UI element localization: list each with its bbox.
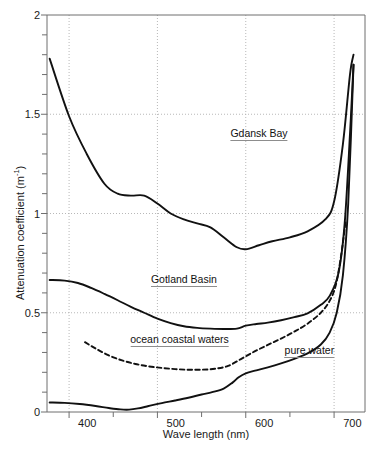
series-label-gotland-basin: Gotland Basin <box>151 273 217 287</box>
series-label-gdansk-bay: Gdansk Bay <box>230 127 287 141</box>
series-label-ocean-coastal-waters: ocean coastal waters <box>130 333 229 347</box>
y-tick-label-2: 2 <box>10 9 40 21</box>
x-tick-label-600: 600 <box>255 417 273 429</box>
y-axis-title: Attenuation coefficient (m-1) <box>14 166 26 300</box>
curve-gdansk-bay <box>50 55 354 250</box>
curve-gotland-basin <box>50 65 354 329</box>
chart-plot-svg <box>0 0 377 449</box>
x-axis-title: Wave length (nm) <box>163 428 249 440</box>
series-label-pure-water: pure water <box>285 344 335 358</box>
y-tick-label-1_5: 1.5 <box>10 108 40 120</box>
chart-figure: 2 1.5 1 0.5 0 400 500 600 700 Attenuatio… <box>0 0 377 449</box>
y-tick-label-0_5: 0.5 <box>10 307 40 319</box>
y-tick-label-0: 0 <box>10 406 40 418</box>
x-tick-label-400: 400 <box>78 417 96 429</box>
x-tick-label-700: 700 <box>343 417 361 429</box>
